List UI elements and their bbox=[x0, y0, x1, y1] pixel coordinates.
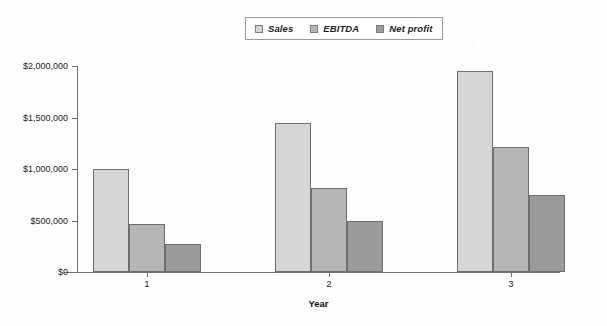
legend-item-sales[interactable]: Sales bbox=[255, 23, 293, 34]
bar-net-profit-year-2[interactable] bbox=[347, 221, 383, 272]
y-axis-tick-label: $1,500,000 bbox=[0, 113, 68, 123]
y-axis-tick bbox=[72, 221, 77, 222]
x-axis-line bbox=[64, 272, 560, 273]
y-axis-tick-label: $0 bbox=[0, 267, 68, 277]
legend-item-net-profit[interactable]: Net profit bbox=[376, 23, 432, 34]
bar-net-profit-year-1[interactable] bbox=[165, 244, 201, 272]
x-axis-tick-label: 2 bbox=[326, 278, 331, 289]
bar-chart: Sales EBITDA Net profit $0$500,000$1,000… bbox=[0, 0, 607, 326]
chart-legend: Sales EBITDA Net profit bbox=[245, 17, 443, 40]
legend-label: Sales bbox=[268, 23, 293, 34]
bar-ebitda-year-2[interactable] bbox=[311, 188, 347, 272]
x-axis-tick bbox=[329, 273, 330, 277]
legend-label: EBITDA bbox=[323, 23, 359, 34]
legend-item-ebitda[interactable]: EBITDA bbox=[310, 23, 359, 34]
y-axis-tick-label: $500,000 bbox=[0, 216, 68, 226]
y-axis-tick bbox=[72, 118, 77, 119]
y-axis-tick-label: $1,000,000 bbox=[0, 164, 68, 174]
y-axis-tick-label: $2,000,000 bbox=[0, 61, 68, 71]
legend-swatch-icon bbox=[376, 25, 384, 33]
x-axis-tick-label: 3 bbox=[508, 278, 513, 289]
bar-sales-year-2[interactable] bbox=[275, 123, 311, 272]
y-axis-line bbox=[77, 66, 78, 273]
bar-net-profit-year-3[interactable] bbox=[529, 195, 565, 272]
plot-area: $0$500,000$1,000,000$1,500,000$2,000,000… bbox=[77, 66, 560, 272]
bar-sales-year-3[interactable] bbox=[457, 71, 493, 272]
y-axis-tick bbox=[72, 169, 77, 170]
bar-ebitda-year-1[interactable] bbox=[129, 224, 165, 272]
legend-swatch-icon bbox=[310, 25, 318, 33]
x-axis-tick-label: 1 bbox=[144, 278, 149, 289]
x-axis-tick bbox=[147, 273, 148, 277]
y-axis-tick bbox=[72, 272, 77, 273]
y-axis-tick bbox=[72, 66, 77, 67]
x-axis-tick bbox=[511, 273, 512, 277]
x-axis-title: Year bbox=[77, 298, 560, 309]
legend-swatch-icon bbox=[255, 25, 263, 33]
bar-ebitda-year-3[interactable] bbox=[493, 147, 529, 272]
bar-sales-year-1[interactable] bbox=[93, 169, 129, 272]
legend-label: Net profit bbox=[389, 23, 432, 34]
